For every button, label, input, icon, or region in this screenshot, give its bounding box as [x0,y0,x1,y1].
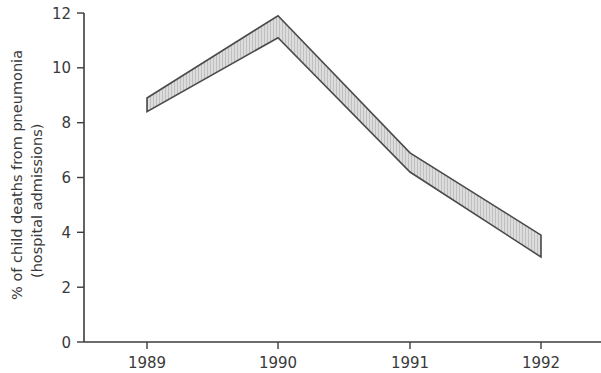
chart-container: % of child deaths from pneumonia (hospit… [0,0,601,373]
y-axis-ticks: 0 2 4 6 8 10 12 [52,5,84,352]
y-tick-label-4: 4 [61,224,71,242]
y-tick-label-6: 6 [61,169,71,187]
y-tick-label-0: 0 [61,334,71,352]
y-axis-label-line2: (hospital admissions) [29,124,45,278]
y-tick-label-10: 10 [52,59,71,77]
y-axis-label-line1: % of child deaths from pneumonia [9,50,25,300]
y-tick-label-8: 8 [61,114,71,132]
y-tick-label-2: 2 [61,279,71,297]
uncertainty-band [147,16,541,257]
x-axis-ticks: 1989 1990 1991 1992 [128,342,560,372]
x-tick-label-1992: 1992 [522,354,560,372]
y-axis-label: % of child deaths from pneumonia (hospit… [9,50,45,300]
x-tick-label-1989: 1989 [128,354,166,372]
x-tick-label-1991: 1991 [391,354,429,372]
pneumonia-deaths-band-chart: % of child deaths from pneumonia (hospit… [0,0,601,373]
y-tick-label-12: 12 [52,5,71,23]
x-tick-label-1990: 1990 [259,354,297,372]
